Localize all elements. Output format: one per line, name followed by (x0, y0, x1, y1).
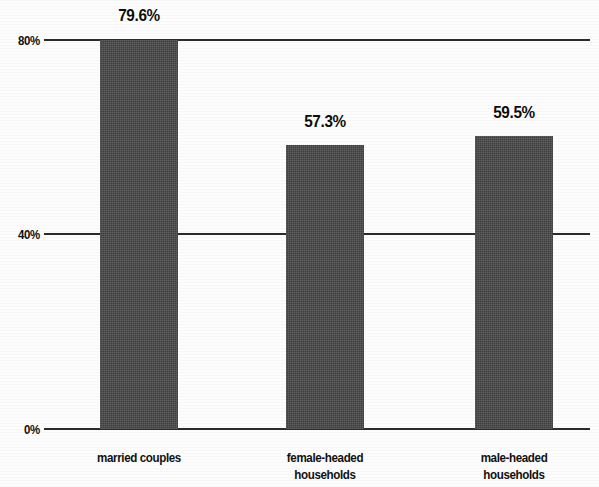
y-tick-label-40: 40% (7, 227, 40, 242)
y-tick-label-80: 80% (7, 33, 40, 48)
bar-female-headed-households[interactable] (286, 145, 364, 429)
category-label-female-headed-households: female-headed households (248, 449, 403, 483)
value-label-male-headed-households: 59.5% (451, 103, 577, 123)
bar-male-headed-households[interactable] (475, 136, 553, 429)
plot-area: 80% 40% 0% 79.6% 57.3% 59.5% married cou… (0, 0, 599, 487)
value-label-married-couples: 79.6% (76, 6, 202, 26)
category-label-married-couples: married couples (62, 449, 217, 466)
bar-chart: 80% 40% 0% 79.6% 57.3% 59.5% married cou… (0, 0, 599, 487)
category-label-male-headed-households: male-headed households (437, 449, 592, 483)
y-tick-label-0: 0% (7, 422, 40, 437)
value-label-female-headed-households: 57.3% (262, 112, 388, 132)
bar-married-couples[interactable] (100, 40, 178, 429)
